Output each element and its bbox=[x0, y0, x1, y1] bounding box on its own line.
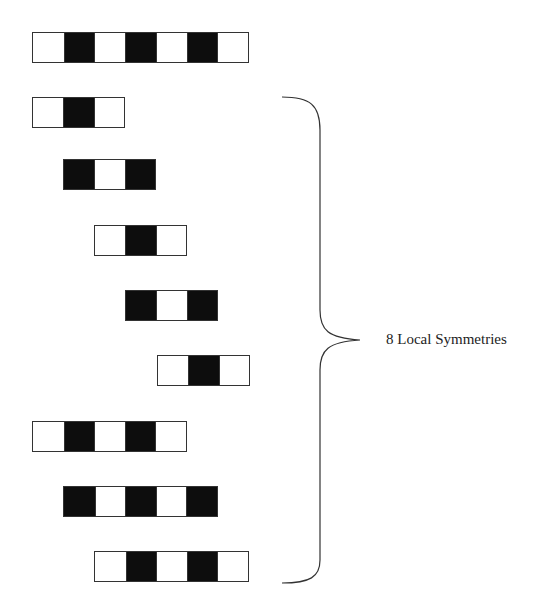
white-cell bbox=[156, 33, 187, 62]
full-pattern-strip bbox=[32, 32, 249, 63]
white-cell bbox=[156, 552, 187, 581]
local-symmetry-strip bbox=[94, 225, 187, 256]
local-symmetry-strip bbox=[94, 551, 249, 582]
black-cell bbox=[64, 33, 95, 62]
local-symmetry-strip bbox=[63, 159, 156, 190]
black-cell bbox=[64, 160, 94, 189]
black-cell bbox=[187, 291, 217, 320]
black-cell bbox=[125, 422, 156, 451]
white-cell bbox=[33, 33, 64, 62]
black-cell bbox=[126, 552, 157, 581]
white-cell bbox=[158, 356, 188, 385]
local-symmetry-strip bbox=[157, 355, 250, 386]
black-cell bbox=[187, 552, 218, 581]
black-cell bbox=[187, 33, 218, 62]
white-cell bbox=[156, 291, 186, 320]
white-cell bbox=[95, 226, 125, 255]
black-cell bbox=[64, 487, 95, 516]
white-cell bbox=[33, 422, 64, 451]
black-cell bbox=[63, 98, 93, 127]
white-cell bbox=[217, 33, 248, 62]
black-cell bbox=[125, 160, 155, 189]
white-cell bbox=[156, 487, 187, 516]
white-cell bbox=[219, 356, 249, 385]
local-symmetry-strip bbox=[63, 486, 218, 517]
local-symmetry-strip bbox=[32, 97, 125, 128]
black-cell bbox=[125, 487, 156, 516]
white-cell bbox=[94, 160, 124, 189]
white-cell bbox=[94, 33, 125, 62]
white-cell bbox=[155, 422, 186, 451]
white-cell bbox=[94, 422, 125, 451]
white-cell bbox=[94, 98, 124, 127]
white-cell bbox=[95, 552, 126, 581]
white-cell bbox=[95, 487, 126, 516]
black-cell bbox=[64, 422, 95, 451]
curly-brace-icon bbox=[270, 90, 370, 590]
local-symmetry-strip bbox=[125, 290, 218, 321]
white-cell bbox=[217, 552, 248, 581]
local-symmetry-strip bbox=[32, 421, 187, 452]
black-cell bbox=[126, 291, 156, 320]
white-cell bbox=[33, 98, 63, 127]
white-cell bbox=[156, 226, 186, 255]
local-symmetries-label: 8 Local Symmetries bbox=[386, 331, 507, 348]
black-cell bbox=[125, 33, 156, 62]
black-cell bbox=[186, 487, 217, 516]
black-cell bbox=[125, 226, 155, 255]
black-cell bbox=[188, 356, 218, 385]
